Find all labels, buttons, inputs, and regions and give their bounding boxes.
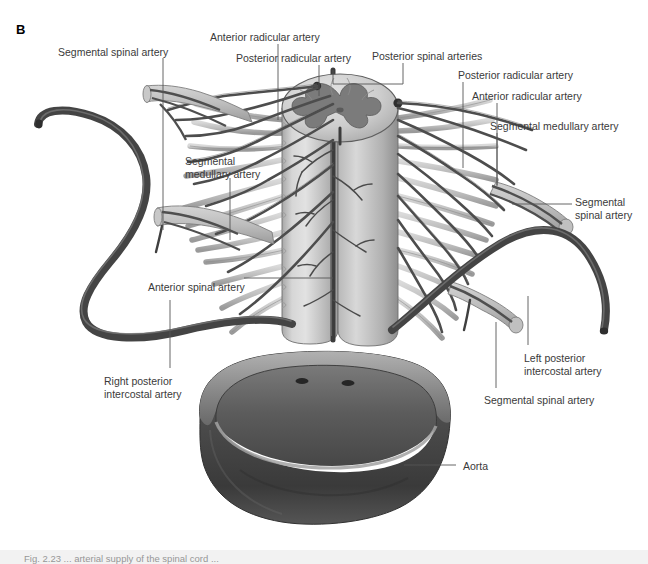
label-posterior-radicular-artery-right: Posterior radicular artery — [458, 69, 573, 82]
anatomy-illustration — [0, 0, 648, 564]
label-segmental-spinal-artery-right: Segmental spinal artery — [575, 196, 632, 221]
aorta-ostium-right — [342, 380, 355, 386]
figure-caption-text: Fig. 2.23 ... arterial supply of the spi… — [24, 553, 219, 564]
aorta-segment — [200, 351, 451, 524]
figure-panel-b: B Segmental spinal arteryAnterior radicu… — [0, 0, 648, 564]
label-posterior-radicular-artery-top: Posterior radicular artery — [236, 52, 351, 65]
aorta-ostium-left — [296, 378, 309, 384]
label-anterior-radicular-artery-right: Anterior radicular artery — [472, 90, 582, 103]
label-segmental-spinal-artery-upper-left: Segmental spinal artery — [58, 46, 168, 59]
label-right-posterior-intercostal-artery: Right posterior intercostal artery — [104, 375, 182, 400]
figure-caption-strip: Fig. 2.23 ... arterial supply of the spi… — [0, 550, 648, 564]
label-left-posterior-intercostal-artery: Left posterior intercostal artery — [524, 352, 602, 377]
label-posterior-spinal-arteries: Posterior spinal arteries — [372, 50, 482, 63]
panel-letter-b: B — [16, 22, 26, 37]
segmental-artery-stump-right-lower — [448, 282, 523, 333]
label-anterior-spinal-artery: Anterior spinal artery — [148, 281, 245, 294]
label-anterior-radicular-artery-top: Anterior radicular artery — [210, 31, 320, 44]
label-segmental-spinal-artery-bottom: Segmental spinal artery — [484, 394, 594, 407]
label-aorta: Aorta — [463, 460, 488, 473]
label-segmental-medullary-artery-right: Segmental medullary artery — [490, 120, 618, 133]
label-segmental-medullary-artery-left: Segmental medullary artery — [185, 155, 260, 180]
